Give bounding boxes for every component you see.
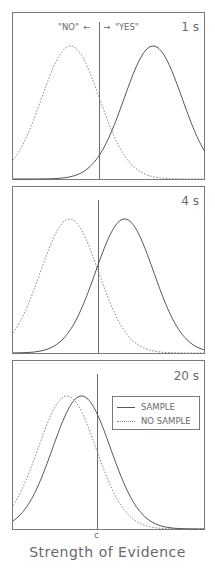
sample-curve [13, 46, 204, 179]
panel-time-label: 4 s [181, 194, 199, 208]
signal-detection-figure: "NO" ← → "YES" 1 s 4 s 20 s [0, 0, 215, 569]
x-axis-label: Strength of Evidence [0, 544, 215, 560]
legend: SAMPLE NO SAMPLE [112, 396, 200, 430]
legend-label: SAMPLE [141, 402, 175, 412]
arrow-right-icon: → [103, 22, 110, 32]
panel-4s: 4 s [13, 187, 205, 354]
criterion-tick-label: c [94, 530, 99, 540]
panel-frame [13, 187, 205, 354]
no-sample-curve [13, 46, 204, 179]
legend-entry-sample: SAMPLE [117, 401, 175, 413]
panel-20s: 20 s [13, 361, 205, 530]
response-yes-label: "YES" [115, 22, 139, 32]
arrow-left-icon: ← [83, 22, 90, 32]
response-no-label: "NO" [58, 22, 79, 32]
legend-entry-no-sample: NO SAMPLE [117, 415, 191, 427]
panel-frame [13, 361, 205, 530]
panel-time-label: 20 s [174, 369, 199, 383]
panel-time-label: 1 s [181, 20, 199, 34]
solid-line-icon [117, 407, 135, 408]
panel-1s: "NO" ← → "YES" 1 s [13, 13, 205, 180]
sample-curve [13, 219, 204, 353]
legend-label: NO SAMPLE [141, 416, 191, 426]
dashed-line-icon [117, 421, 135, 422]
panel-frame [13, 13, 205, 180]
